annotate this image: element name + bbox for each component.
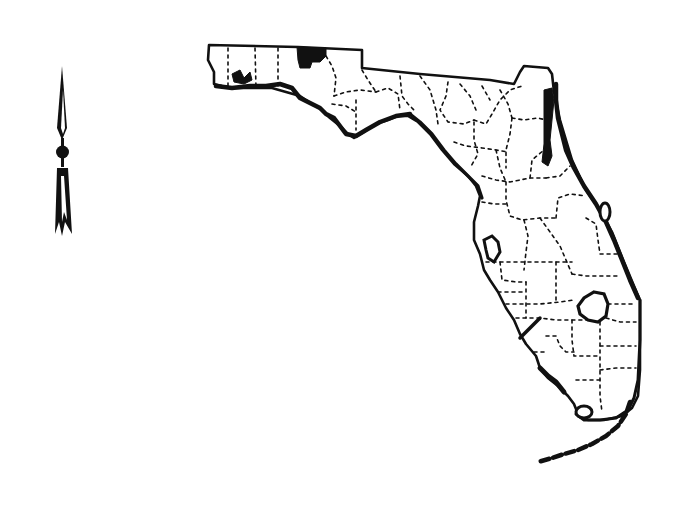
florida-bay-mark bbox=[576, 406, 592, 418]
indian-river-lagoon bbox=[600, 203, 610, 221]
florida-map bbox=[0, 0, 682, 508]
north-arrow-icon bbox=[55, 66, 72, 236]
state-outline bbox=[208, 45, 640, 420]
